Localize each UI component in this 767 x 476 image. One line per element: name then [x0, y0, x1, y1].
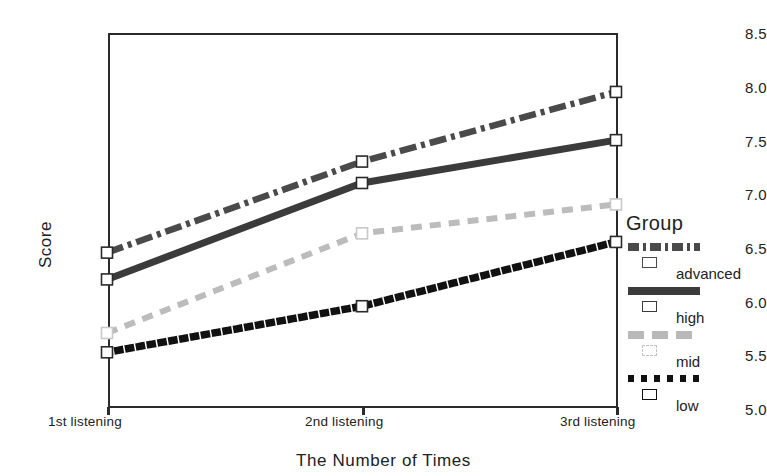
line-sample-icon	[628, 375, 700, 382]
open-square-marker-icon	[642, 389, 657, 400]
line-sample-icon	[628, 287, 700, 295]
legend-entry-advanced[interactable]: advanced	[624, 241, 767, 285]
open-square-marker-icon	[642, 257, 657, 268]
open-square-marker-icon	[642, 301, 657, 312]
legend-entry-low[interactable]: low	[624, 373, 767, 417]
y-axis-title: Score	[36, 221, 56, 268]
y-tick-label: 7.5	[721, 133, 767, 150]
y-tick-label: 8.5	[721, 25, 767, 42]
legend-label: advanced	[676, 265, 741, 282]
x-axis-title: The Number of Times	[0, 451, 767, 471]
plot-area	[108, 33, 618, 408]
x-tick-label: 1st listening	[48, 414, 122, 429]
line-sample-icon	[628, 331, 700, 339]
legend-title: Group	[626, 212, 767, 235]
line-sample-icon	[628, 243, 700, 251]
legend-entry-high[interactable]: high	[624, 285, 767, 329]
line-chart: 8.5 8.0 7.5 7.0 6.5 6.0 5.5 5.0 Score 1s…	[0, 0, 767, 476]
legend-label: high	[676, 309, 704, 326]
legend-label: low	[676, 397, 699, 414]
legend-label: mid	[676, 353, 700, 370]
x-tick-label: 2nd listening	[305, 414, 383, 429]
y-tick-label: 7.0	[721, 186, 767, 203]
legend: Group advanced high mid low	[624, 212, 767, 417]
legend-entry-mid[interactable]: mid	[624, 329, 767, 373]
open-square-marker-icon	[642, 345, 657, 356]
y-tick-label: 8.0	[721, 79, 767, 96]
